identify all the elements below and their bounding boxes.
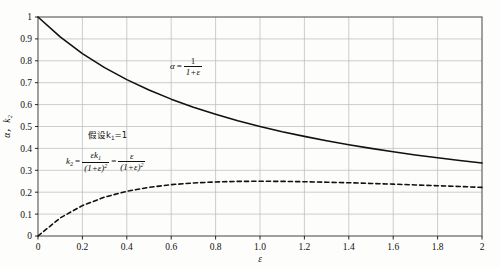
y-tick-label: 1 bbox=[27, 12, 32, 22]
alpha-numerator: 1 bbox=[184, 56, 202, 67]
x-tick-label: 2 bbox=[480, 242, 485, 252]
k2-fraction-first: εk1(1+ε)2 bbox=[82, 150, 109, 174]
y-tick-label: 0.5 bbox=[20, 122, 32, 132]
k2-equals-second: = bbox=[109, 156, 118, 166]
x-tick-label: 1.2 bbox=[298, 242, 310, 252]
assumption-annotation: 假设k1=1 bbox=[88, 131, 127, 141]
x-tick-label: 1.6 bbox=[387, 242, 399, 252]
k2-numerator-second: ε bbox=[118, 151, 145, 162]
x-tick-label: 0.4 bbox=[121, 242, 133, 252]
alpha-formula-annotation: α=11+ε bbox=[170, 56, 202, 78]
alpha-denominator: 1+ε bbox=[184, 67, 202, 78]
y-tick-label: 0 bbox=[27, 231, 32, 241]
assumption-text: 假设k bbox=[88, 130, 111, 140]
alpha-equals: = bbox=[175, 61, 184, 71]
k2-equals-first: = bbox=[73, 156, 82, 166]
alpha-fraction: 11+ε bbox=[184, 56, 202, 78]
k2-den2-sup: 2 bbox=[140, 162, 143, 168]
k2-den1-sup: 2 bbox=[104, 163, 107, 169]
y-tick-label: 0.9 bbox=[20, 34, 32, 44]
y-tick-label: 0.8 bbox=[20, 56, 32, 66]
y-tick-label: 0.6 bbox=[20, 100, 32, 110]
y-tick-label: 0.3 bbox=[20, 166, 32, 176]
k2-fraction-second: ε(1+ε)2 bbox=[118, 151, 145, 173]
assumption-tail: =1 bbox=[115, 130, 128, 140]
y-tick-label: 0.4 bbox=[20, 144, 32, 154]
y-tick-label: 0.1 bbox=[20, 210, 32, 220]
chart-canvas: 00.10.20.30.40.50.60.70.80.9100.20.40.60… bbox=[0, 0, 501, 268]
figure-root: 00.10.20.30.40.50.60.70.80.9100.20.40.60… bbox=[0, 0, 501, 268]
x-tick-label: 1.8 bbox=[432, 242, 444, 252]
x-tick-label: 0 bbox=[36, 242, 41, 252]
k2-den2-text: (1+ε) bbox=[120, 162, 140, 172]
axis-ticks bbox=[35, 17, 482, 240]
y-tick-label: 0.2 bbox=[20, 188, 32, 198]
x-axis-title: ε bbox=[258, 254, 262, 264]
k2-numerator-first: εk1 bbox=[82, 150, 109, 163]
y-axis-title: α，k₂ bbox=[2, 115, 12, 138]
x-tick-label: 0.6 bbox=[165, 242, 177, 252]
x-tick-label: 1.4 bbox=[343, 242, 355, 252]
k2-den1-text: (1+ε) bbox=[84, 163, 104, 173]
k2-denominator-second: (1+ε)2 bbox=[118, 162, 145, 173]
k2-num1-text: εk bbox=[90, 150, 98, 160]
x-tick-label: 1.0 bbox=[254, 242, 266, 252]
k2-formula-annotation: k2=εk1(1+ε)2=ε(1+ε)2 bbox=[66, 150, 145, 174]
k2-num1-sub: 1 bbox=[98, 155, 101, 161]
x-tick-label: 0.8 bbox=[210, 242, 222, 252]
x-tick-label: 0.2 bbox=[76, 242, 88, 252]
k2-denominator-first: (1+ε)2 bbox=[82, 163, 109, 174]
y-tick-label: 0.7 bbox=[20, 78, 32, 88]
